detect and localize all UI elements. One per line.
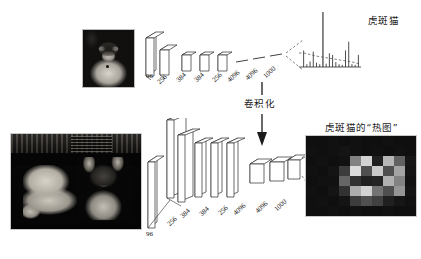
barchart-svg xyxy=(298,9,362,71)
heatmap-cell xyxy=(361,166,372,176)
heatmap-cell xyxy=(328,176,339,186)
photo-white-cat xyxy=(23,165,78,218)
heatmap-cell xyxy=(317,156,328,166)
heatmap-cell xyxy=(361,196,372,206)
heatmap-cell xyxy=(405,186,416,196)
heatmap-cell xyxy=(339,136,350,146)
heatmap-cell xyxy=(372,176,383,186)
photo-foreground xyxy=(11,220,141,230)
top-right-title: 虎斑猫 xyxy=(368,13,399,27)
heatmap-cell xyxy=(350,146,361,156)
heatmap-cell xyxy=(328,146,339,156)
heatmap-grid xyxy=(306,136,416,216)
heatmap-cell xyxy=(339,156,350,166)
heatmap-cell xyxy=(383,196,394,206)
heatmap-cell xyxy=(361,176,372,186)
heatmap-cell xyxy=(372,146,383,156)
heatmap-cell xyxy=(328,196,339,206)
heatmap-cell xyxy=(394,196,405,206)
bottom-cats-photo xyxy=(10,133,142,230)
heatmap-cell xyxy=(372,136,383,146)
heatmap-cell xyxy=(394,206,405,216)
heatmap-cell xyxy=(339,146,350,156)
heatmap-cell xyxy=(339,166,350,176)
heatmap-cell xyxy=(383,176,394,186)
heatmap-cell xyxy=(339,176,350,186)
heatmap-cell xyxy=(328,206,339,216)
heatmap-cell xyxy=(405,206,416,216)
heatmap-cell xyxy=(339,206,350,216)
heatmap-cell xyxy=(317,206,328,216)
photo-background-blinds xyxy=(71,136,113,152)
heatmap-cell xyxy=(361,136,372,146)
heatmap-cell xyxy=(405,146,416,156)
heatmap-cell xyxy=(306,146,317,156)
heatmap-cell xyxy=(306,196,317,206)
heatmap-cell xyxy=(372,156,383,166)
heatmap-cell xyxy=(328,186,339,196)
heatmap-cell xyxy=(394,136,405,146)
heatmap-cell xyxy=(328,156,339,166)
heatmap-cell xyxy=(350,166,361,176)
figure-root: 96 256 384 384 256 4096 4096 1000 虎斑猫 卷积… xyxy=(0,0,421,259)
transform-label: 卷积化 xyxy=(244,96,275,110)
heatmap-cell xyxy=(317,146,328,156)
heatmap-cell xyxy=(350,206,361,216)
heatmap-cell xyxy=(383,146,394,156)
heatmap-cell xyxy=(361,146,372,156)
heatmap-cell xyxy=(306,166,317,176)
heatmap-cell xyxy=(339,186,350,196)
heatmap-cell xyxy=(394,176,405,186)
heatmap-cell xyxy=(361,206,372,216)
heatmap-cell xyxy=(317,176,328,186)
heatmap-cell xyxy=(394,156,405,166)
heatmap-cell xyxy=(372,186,383,196)
bottom-network-diagram xyxy=(140,118,310,236)
heatmap-cell xyxy=(306,186,317,196)
heatmap-cell xyxy=(328,166,339,176)
heatmap-cell xyxy=(405,166,416,176)
heatmap-cell xyxy=(383,186,394,196)
heatmap-cell xyxy=(350,176,361,186)
heatmap-cell xyxy=(383,156,394,166)
heatmap-cell xyxy=(372,196,383,206)
heatmap-cell xyxy=(317,166,328,176)
heatmap-cell xyxy=(394,166,405,176)
heatmap-cell xyxy=(328,136,339,146)
heatmap-cell xyxy=(383,206,394,216)
heatmap-cell xyxy=(394,186,405,196)
heatmap-cell xyxy=(405,156,416,166)
heatmap-cell xyxy=(361,156,372,166)
heatmap-cell xyxy=(306,176,317,186)
class-score-barchart xyxy=(298,9,362,71)
heatmap-cell xyxy=(372,166,383,176)
heatmap-cell xyxy=(405,196,416,206)
photo-tabby-cat xyxy=(77,157,132,222)
heatmap-cell xyxy=(306,136,317,146)
heatmap-cell xyxy=(306,156,317,166)
top-cat-photo xyxy=(82,29,135,88)
heatmap-cell xyxy=(350,136,361,146)
heatmap-cell xyxy=(383,136,394,146)
heatmap-cell xyxy=(405,136,416,146)
heatmap-cell xyxy=(317,186,328,196)
heatmap-cell xyxy=(383,166,394,176)
bottom-right-title: 虎斑猫的“热图” xyxy=(325,120,398,134)
heatmap-cell xyxy=(350,156,361,166)
heatmap-cell xyxy=(361,186,372,196)
bottom-net-label-96: 96 xyxy=(146,230,153,238)
heatmap-cell xyxy=(405,176,416,186)
heatmap-cell xyxy=(350,196,361,206)
heatmap-cell xyxy=(339,196,350,206)
heatmap-cell xyxy=(394,146,405,156)
top-net-label-96: 96 xyxy=(146,72,153,80)
heatmap-cell xyxy=(306,206,317,216)
heatmap-cell xyxy=(317,196,328,206)
heatmap-cell xyxy=(317,136,328,146)
heatmap-cell xyxy=(350,186,361,196)
heatmap-cell xyxy=(372,206,383,216)
heatmap-image xyxy=(305,135,417,217)
